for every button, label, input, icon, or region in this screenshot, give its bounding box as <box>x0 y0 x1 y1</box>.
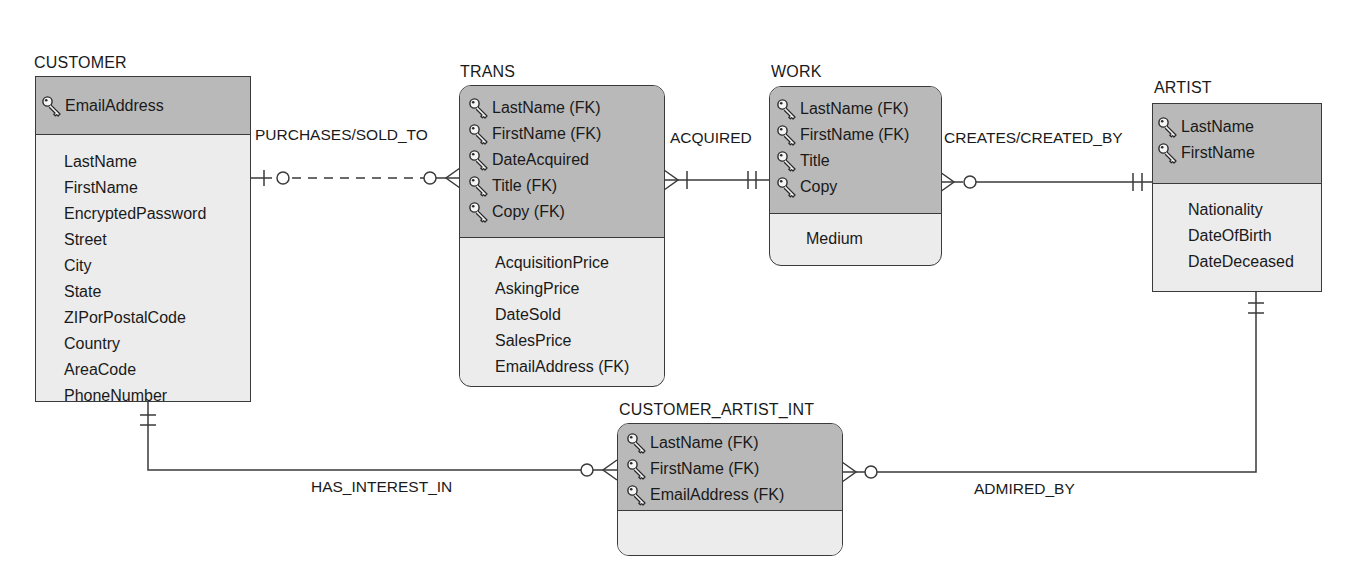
attribute-name: Copy <box>800 174 837 200</box>
key-icon <box>626 484 648 506</box>
key-attribute: EmailAddress <box>41 93 250 119</box>
key-attribute: LastName <box>1157 114 1321 140</box>
key-attribute: FirstName (FK) <box>468 121 664 147</box>
customer-attribute-section: LastName FirstName EncryptedPassword Str… <box>36 135 250 402</box>
work-attribute-section: Medium <box>770 214 941 252</box>
attribute: Country <box>64 331 250 357</box>
rel-label-purchases-sold-to: PURCHASES/SOLD_TO <box>255 126 428 144</box>
rel-label-has-interest-in: HAS_INTEREST_IN <box>311 478 452 496</box>
entity-title-trans: TRANS <box>460 63 515 81</box>
attribute-name: Title <box>800 148 830 174</box>
key-icon <box>1157 116 1179 138</box>
attribute: PhoneNumber <box>64 383 250 402</box>
key-attribute: FirstName (FK) <box>626 456 842 482</box>
customer-artist-int-attribute-section <box>618 511 842 556</box>
key-icon <box>776 176 798 198</box>
attribute: FirstName <box>64 175 250 201</box>
attribute: DateSold <box>495 302 664 328</box>
er-diagram: CUSTOMER EmailAddress LastName FirstName… <box>0 0 1352 579</box>
artist-key-section: LastName FirstName <box>1153 104 1321 184</box>
key-icon <box>468 201 490 223</box>
key-icon <box>468 123 490 145</box>
key-attribute: FirstName <box>1157 140 1321 166</box>
attribute: AcquisitionPrice <box>495 250 664 276</box>
key-icon <box>776 98 798 120</box>
attribute: Medium <box>806 226 941 252</box>
rel-acquired <box>664 170 770 190</box>
key-icon <box>626 458 648 480</box>
key-icon <box>468 175 490 197</box>
key-attribute: Copy <box>776 174 941 200</box>
customer-key-section: EmailAddress <box>36 77 250 135</box>
attribute: City <box>64 253 250 279</box>
key-icon <box>41 95 63 117</box>
attribute: Nationality <box>1188 197 1321 223</box>
attribute-name: FirstName <box>1181 140 1255 166</box>
entity-artist[interactable]: LastName FirstName Nationality DateOfBir… <box>1152 103 1322 292</box>
key-attribute: Title (FK) <box>468 173 664 199</box>
attribute: LastName <box>64 149 250 175</box>
entity-title-customer: CUSTOMER <box>34 54 127 72</box>
key-icon <box>626 432 648 454</box>
attribute: AskingPrice <box>495 276 664 302</box>
rel-creates-created-by <box>940 172 1152 192</box>
attribute: DateDeceased <box>1188 249 1321 275</box>
attribute-name: DateAcquired <box>492 147 589 173</box>
attribute-name: EmailAddress (FK) <box>650 482 784 508</box>
rel-has-interest-in <box>140 400 617 480</box>
key-icon <box>1157 142 1179 164</box>
attribute-name: FirstName (FK) <box>800 122 909 148</box>
key-icon <box>468 149 490 171</box>
key-icon <box>468 97 490 119</box>
attribute: AreaCode <box>64 357 250 383</box>
attribute: State <box>64 279 250 305</box>
trans-attribute-section: AcquisitionPrice AskingPrice DateSold Sa… <box>460 238 664 380</box>
rel-label-creates-created-by: CREATES/CREATED_BY <box>944 129 1123 147</box>
attribute: EmailAddress (FK) <box>495 354 664 380</box>
entity-title-work: WORK <box>771 63 822 81</box>
entity-trans[interactable]: LastName (FK) FirstName (FK) DateAcquire… <box>459 85 665 387</box>
attribute: DateOfBirth <box>1188 223 1321 249</box>
key-attribute: EmailAddress (FK) <box>626 482 842 508</box>
rel-purchases-sold-to <box>250 168 460 188</box>
entity-customer-artist-int[interactable]: LastName (FK) FirstName (FK) EmailAddres… <box>617 423 843 556</box>
attribute: SalesPrice <box>495 328 664 354</box>
attribute-name: LastName (FK) <box>492 95 600 121</box>
attribute: Street <box>64 227 250 253</box>
entity-title-artist: ARTIST <box>1154 79 1212 97</box>
artist-attribute-section: Nationality DateOfBirth DateDeceased <box>1153 184 1321 275</box>
key-icon <box>776 124 798 146</box>
key-attribute: DateAcquired <box>468 147 664 173</box>
rel-label-acquired: ACQUIRED <box>670 129 752 147</box>
attribute-name: LastName (FK) <box>800 96 908 122</box>
attribute-name: LastName (FK) <box>650 430 758 456</box>
attribute-name: Copy (FK) <box>492 199 565 225</box>
key-attribute: LastName (FK) <box>626 430 842 456</box>
key-attribute: Title <box>776 148 941 174</box>
attribute-name: FirstName (FK) <box>650 456 759 482</box>
key-attribute: FirstName (FK) <box>776 122 941 148</box>
customer-artist-int-key-section: LastName (FK) FirstName (FK) EmailAddres… <box>618 424 842 511</box>
rel-admired-by <box>842 292 1264 482</box>
trans-key-section: LastName (FK) FirstName (FK) DateAcquire… <box>460 86 664 238</box>
attribute-name: Title (FK) <box>492 173 557 199</box>
attribute: ZIPorPostalCode <box>64 305 250 331</box>
attribute: EncryptedPassword <box>64 201 250 227</box>
attribute-name: FirstName (FK) <box>492 121 601 147</box>
rel-label-admired-by: ADMIRED_BY <box>974 480 1075 498</box>
entity-customer[interactable]: EmailAddress LastName FirstName Encrypte… <box>35 76 251 402</box>
key-attribute: LastName (FK) <box>776 96 941 122</box>
attribute-name: LastName <box>1181 114 1254 140</box>
key-icon <box>776 150 798 172</box>
work-key-section: LastName (FK) FirstName (FK) Title Copy <box>770 87 941 214</box>
key-attribute: Copy (FK) <box>468 199 664 225</box>
entity-title-customer-artist-int: CUSTOMER_ARTIST_INT <box>619 401 814 419</box>
entity-work[interactable]: LastName (FK) FirstName (FK) Title Copy … <box>769 86 942 266</box>
attribute-name: EmailAddress <box>65 93 164 119</box>
key-attribute: LastName (FK) <box>468 95 664 121</box>
